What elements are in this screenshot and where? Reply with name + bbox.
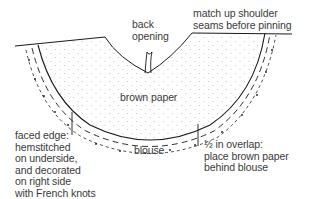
overlap-label-line: ½ in overlap: (204, 139, 289, 151)
faced-edge-label-line: faced edge: (15, 130, 96, 142)
faced-edge-label-line: on right side (15, 176, 96, 188)
faced-edge-label-line: on underside, (15, 153, 96, 165)
faced-edge-label-line: with French knots (15, 188, 96, 199)
back-opening-label: back opening (132, 19, 169, 42)
shoulder-label-line: seams before pinning (193, 20, 291, 32)
blouse-label: blouse (134, 145, 164, 157)
shoulder-label: match up shoulder seams before pinning (193, 8, 291, 31)
shoulder-label-line: match up shoulder (193, 8, 291, 20)
overlap-label-line: behind blouse (204, 162, 289, 174)
brown-paper-label: brown paper (120, 92, 177, 104)
back-opening-slit (145, 52, 152, 73)
overlap-label: ½ in overlap: place brown paper behind b… (204, 139, 289, 174)
back-opening-label-line: back (132, 19, 169, 31)
faced-edge-label: faced edge: hemstitched on underside, an… (15, 130, 96, 198)
back-opening-label-line: opening (132, 31, 169, 43)
